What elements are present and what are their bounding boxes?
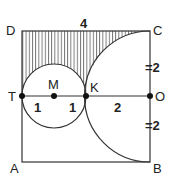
label-b: B	[153, 161, 162, 176]
length-top: 4	[80, 16, 88, 31]
label-m: M	[48, 77, 59, 92]
point-o	[147, 93, 153, 99]
length-ob: =2	[145, 118, 160, 133]
geometry-diagram: D C A B T M K O 4 1 1 2 =2 =2	[0, 0, 173, 179]
label-k: K	[90, 80, 99, 95]
label-a: A	[10, 161, 19, 176]
length-tm: 1	[34, 100, 41, 115]
length-co: =2	[145, 60, 160, 75]
length-ko: 2	[114, 100, 121, 115]
point-t	[19, 93, 25, 99]
diagram-canvas: D C A B T M K O 4 1 1 2 =2 =2	[0, 0, 173, 179]
label-d: D	[6, 23, 15, 38]
point-m	[51, 93, 57, 99]
length-mk: 1	[69, 100, 76, 115]
label-c: C	[153, 23, 162, 38]
label-t: T	[8, 89, 16, 104]
point-k	[83, 93, 89, 99]
label-o: O	[155, 89, 165, 104]
